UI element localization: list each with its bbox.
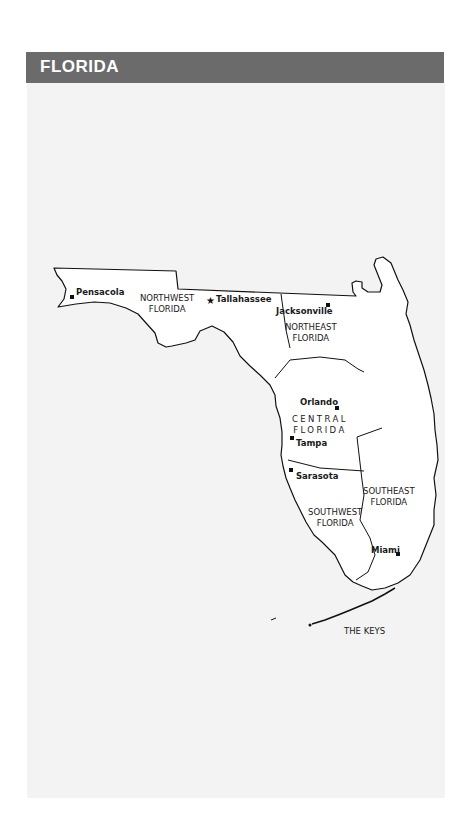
region-label-southeast: SOUTHEASTFLORIDA (363, 486, 415, 508)
city-label-sarasota: Sarasota (296, 471, 338, 481)
tallahassee-star-icon: ★ (206, 295, 215, 306)
city-label-pensacola: Pensacola (76, 287, 124, 297)
region-label-central: CENTRALFLORIDA (292, 414, 348, 436)
state-outline (54, 257, 438, 590)
region-label-southwest: SOUTHWESTFLORIDA (308, 507, 362, 529)
tampa-marker (290, 436, 294, 440)
city-label-orlando: Orlando (300, 397, 338, 407)
region-label-keys: THE KEYS (344, 626, 385, 637)
city-label-miami: Miami (371, 545, 400, 555)
florida-map: ★ (0, 0, 466, 824)
city-label-jacksonville: Jacksonville (276, 306, 333, 316)
region-label-northwest: NORTHWESTFLORIDA (140, 293, 194, 315)
pensacola-marker (70, 295, 74, 299)
sarasota-marker (289, 468, 293, 472)
keys-chain (312, 588, 395, 624)
city-label-tampa: Tampa (296, 438, 327, 448)
region-label-northeast: NORTHEASTFLORIDA (285, 322, 337, 344)
city-label-tallahassee: Tallahassee (216, 294, 271, 304)
